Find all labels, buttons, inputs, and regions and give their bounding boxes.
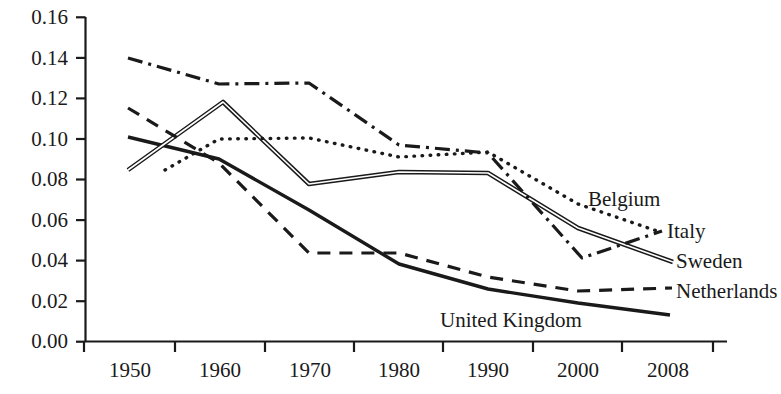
x-tick-label-2000: 2000 — [536, 358, 620, 383]
y-tick-label-0.10: 0.10 — [0, 127, 68, 152]
y-tick-label-0.16: 0.16 — [0, 5, 68, 30]
y-tick-label-0.04: 0.04 — [0, 248, 68, 273]
series-line-united-kingdom — [128, 137, 670, 315]
x-tick-label-1990: 1990 — [446, 358, 530, 383]
series-label-netherlands: Netherlands — [676, 279, 777, 304]
series-label-sweden: Sweden — [676, 249, 743, 274]
x-axis-ticks — [84, 342, 713, 352]
x-tick-label-1960: 1960 — [178, 358, 262, 383]
chart-plot-area — [0, 0, 781, 394]
series-label-italy: Italy — [667, 219, 705, 244]
y-axis-ticks — [76, 17, 86, 341]
y-tick-label-0.12: 0.12 — [0, 86, 68, 111]
series-label-belgium: Belgium — [588, 187, 660, 212]
y-tick-label-0.14: 0.14 — [0, 46, 68, 71]
axis-lines — [86, 17, 728, 342]
series-line-sweden — [128, 102, 673, 262]
x-tick-label-1970: 1970 — [268, 358, 352, 383]
x-tick-label-1950: 1950 — [88, 358, 172, 383]
x-tick-label-2008: 2008 — [626, 358, 710, 383]
line-chart: 0.16 0.14 0.12 0.10 0.08 0.06 0.04 0.02 … — [0, 0, 781, 394]
y-tick-label-0.02: 0.02 — [0, 289, 68, 314]
y-tick-label-0.06: 0.06 — [0, 208, 68, 233]
y-tick-label-0.08: 0.08 — [0, 167, 68, 192]
y-tick-label-0.00: 0.00 — [0, 329, 68, 354]
x-tick-label-1980: 1980 — [357, 358, 441, 383]
series-label-united-kingdom: United Kingdom — [440, 308, 582, 333]
